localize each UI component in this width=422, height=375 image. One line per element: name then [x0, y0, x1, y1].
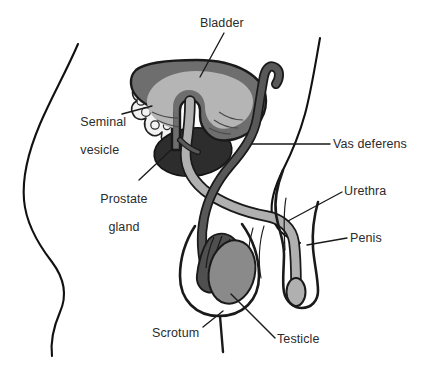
- scrotum-raphe: [220, 316, 223, 352]
- label-bladder: Bladder: [200, 17, 244, 31]
- label-prostate-gland: Prostate gland: [86, 178, 148, 248]
- label-urethra: Urethra: [344, 185, 386, 199]
- scrotum-fascia-line: [259, 226, 264, 278]
- label-prostate-gland-line2: gland: [108, 220, 139, 234]
- anatomy-diagram: Bladder Seminal vesicle Prostate gland V…: [0, 0, 422, 375]
- label-testicle: Testicle: [277, 333, 319, 347]
- label-scrotum: Scrotum: [152, 327, 199, 341]
- label-seminal-vesicle-line1: Seminal: [80, 115, 126, 129]
- body-contour-left: [24, 44, 78, 356]
- testicle-group: [197, 234, 261, 308]
- label-penis: Penis: [350, 232, 382, 246]
- label-seminal-vesicle-line2: vesicle: [80, 143, 119, 157]
- label-seminal-vesicle: Seminal vesicle: [66, 101, 126, 171]
- label-vas-deferens: Vas deferens: [333, 138, 407, 152]
- label-prostate-gland-line1: Prostate: [100, 192, 147, 206]
